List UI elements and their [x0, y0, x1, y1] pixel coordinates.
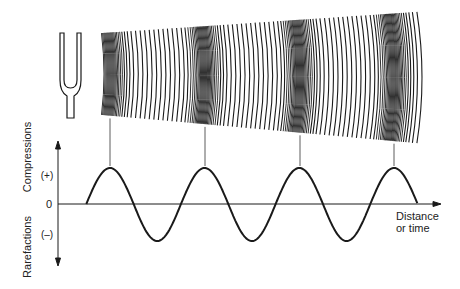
- wavefront-arc: [149, 30, 152, 119]
- wavefront-arc: [228, 25, 232, 127]
- wavefront-arc: [356, 16, 361, 138]
- wavefront-arc: [154, 30, 157, 120]
- arrow-down-icon: [56, 258, 61, 266]
- wavefront-arc: [273, 22, 277, 131]
- wavefront-arc: [140, 31, 143, 119]
- wavefront-arc: [278, 21, 282, 131]
- wavefront-arc: [217, 25, 220, 125]
- wavefront-arc: [366, 15, 371, 138]
- wavefront-arc: [131, 31, 134, 118]
- wavefront-arc: [172, 28, 175, 121]
- wavefront-arc: [163, 29, 166, 121]
- wavefront-arc: [167, 29, 170, 121]
- wavefront-arc: [185, 28, 188, 123]
- wavefront-arc: [241, 24, 245, 128]
- wavefront-arc: [246, 23, 250, 128]
- x-axis-label-line2: or time: [396, 222, 430, 234]
- wavefront-arc: [177, 28, 180, 122]
- wavefront-arc: [352, 16, 357, 137]
- wavefront-arc: [370, 15, 375, 139]
- wavefront-arc: [260, 22, 264, 129]
- zero-label: 0: [46, 198, 52, 210]
- wavefront-arc: [237, 24, 241, 127]
- sound-wave-diagram: Compressions Rarefactions (+) 0 (–) Dist…: [0, 0, 460, 289]
- plus-label: (+): [41, 170, 54, 181]
- wavefront-arc: [334, 18, 338, 136]
- wavefront-arc: [145, 30, 148, 119]
- wavefront-arc: [136, 31, 139, 118]
- minus-label: (–): [41, 229, 53, 240]
- wavefront-arc: [264, 22, 268, 129]
- wavefront-arc: [255, 23, 259, 129]
- wavefront-arc: [329, 18, 333, 136]
- wavefront-arc: [343, 17, 348, 137]
- wavefront-arc: [232, 24, 236, 126]
- wavefront-arc: [347, 17, 352, 137]
- wavefront-arc: [412, 12, 417, 143]
- wavefront-arc: [251, 23, 255, 128]
- x-axis-label-line1: Distance: [396, 210, 439, 222]
- arrow-up-icon: [56, 141, 61, 149]
- wavefront-arc: [338, 17, 342, 136]
- tuning-fork-icon: [60, 33, 81, 118]
- compression-connector-lines: [110, 118, 394, 166]
- wavefront-arc: [158, 29, 161, 120]
- arrow-right-icon: [433, 202, 441, 207]
- wavefront-arcs: [102, 12, 423, 143]
- y-axis-upper-label: Compressions: [21, 121, 33, 192]
- wavefront-arc: [127, 31, 130, 117]
- x-axis: [58, 202, 441, 207]
- wavefront-arc: [325, 18, 329, 135]
- wavefront-arc: [269, 22, 273, 130]
- wavefront-arc: [181, 28, 184, 122]
- wavefront-arc: [361, 16, 366, 139]
- y-axis-lower-label: Rarefactions: [21, 216, 33, 278]
